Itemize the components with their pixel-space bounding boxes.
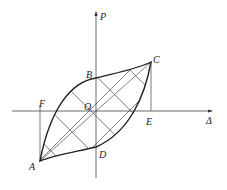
hysteresis-diagram: P Δ C B O F E D A (0, 0, 227, 190)
label-B: B (86, 70, 92, 80)
label-delta: Δ (206, 116, 212, 126)
label-O: O (84, 102, 91, 112)
label-F: F (39, 99, 45, 109)
label-P: P (100, 12, 106, 22)
label-D: D (99, 150, 106, 160)
label-E: E (146, 117, 152, 127)
label-C: C (153, 55, 160, 65)
label-A: A (29, 162, 35, 172)
